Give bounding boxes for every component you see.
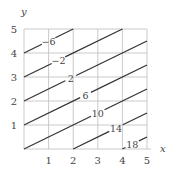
contour-line bbox=[24, 44, 42, 53]
x-tick-label: 5 bbox=[144, 155, 150, 166]
y-tick-label: 5 bbox=[11, 24, 17, 35]
contour-line bbox=[73, 131, 109, 149]
contour-label: 2 bbox=[68, 73, 74, 84]
contour-plot: −6−226101418 1234512345 x y bbox=[0, 0, 174, 173]
contour-label: 10 bbox=[92, 108, 104, 119]
contour-line bbox=[24, 63, 52, 77]
contour-line bbox=[91, 65, 147, 92]
contour-label: −6 bbox=[42, 36, 56, 47]
x-tick-label: 3 bbox=[95, 155, 101, 166]
y-tick-label: 1 bbox=[11, 120, 17, 131]
contour-line bbox=[55, 29, 73, 38]
x-tick-label: 1 bbox=[45, 155, 51, 166]
contour-label: −2 bbox=[51, 55, 65, 66]
y-tick-label: 3 bbox=[11, 72, 17, 83]
contour-line bbox=[24, 98, 80, 125]
x-axis-label: x bbox=[160, 143, 166, 154]
x-tick-label: 4 bbox=[119, 155, 125, 166]
contour-line bbox=[139, 137, 147, 141]
y-axis-label: y bbox=[20, 6, 27, 17]
contour-line bbox=[24, 81, 65, 101]
contour-label: 6 bbox=[82, 90, 88, 101]
contour-label: 14 bbox=[110, 123, 122, 134]
contour-line bbox=[105, 89, 147, 110]
contour-label: 18 bbox=[126, 139, 138, 150]
y-tick-label: 4 bbox=[11, 48, 17, 59]
contour-line bbox=[24, 116, 91, 149]
contour-line bbox=[123, 113, 147, 125]
y-tick-label: 2 bbox=[11, 96, 17, 107]
x-tick-label: 2 bbox=[70, 155, 76, 166]
